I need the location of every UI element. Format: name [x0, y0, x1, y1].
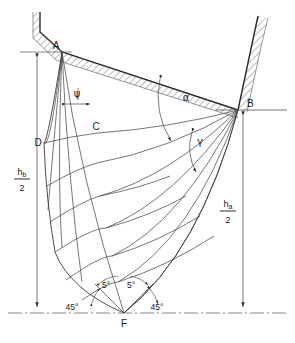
point-label-F: F: [121, 318, 127, 329]
angle-label-45deg-left: 45°: [66, 302, 79, 312]
angle-label-alpha: α: [183, 92, 190, 103]
hb-denominator: 2: [19, 183, 24, 193]
hb-subscript: b: [23, 171, 27, 178]
point-label-B: B: [247, 98, 254, 109]
point-label-A: A: [53, 40, 60, 51]
ha-denominator: 2: [225, 215, 230, 225]
angle-label-psi: ψ: [74, 88, 81, 99]
angle-label-gamma: γ: [197, 136, 203, 147]
diagram-canvas: A B C D F ψ α γ 5° 5° 45° 45° hb 2 ha 2: [0, 0, 295, 343]
angle-label-5deg-left: 5°: [102, 280, 110, 290]
point-label-C: C: [92, 121, 99, 132]
point-label-D: D: [34, 137, 41, 148]
angle-label-45deg-right: 45°: [151, 302, 164, 312]
angle-label-5deg-right: 5°: [127, 280, 135, 290]
ha-subscript: a: [229, 203, 233, 210]
slip-line-field-diagram: A B C D F ψ α γ 5° 5° 45° 45° hb 2 ha 2: [0, 0, 295, 343]
